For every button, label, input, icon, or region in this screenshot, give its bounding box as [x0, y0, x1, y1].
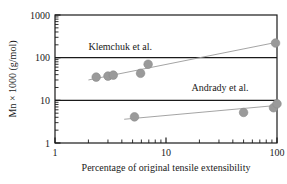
y-tick-label-1000: 1000	[30, 10, 50, 21]
data-point-series-0-4	[144, 60, 153, 69]
chart-figure: 1101001000110100Percentage of original t…	[0, 0, 287, 184]
y-tick-label-1: 1	[45, 138, 50, 149]
data-point-series-1-3	[273, 99, 282, 108]
x-tick-label-1: 1	[53, 147, 58, 158]
series-annotation-0: Klemchuk et al.	[88, 41, 152, 52]
x-tick-label-10: 10	[161, 147, 171, 158]
y-tick-label-100: 100	[35, 52, 50, 63]
data-point-series-0-5	[271, 39, 280, 48]
scatter-plot: 1101001000110100Percentage of original t…	[0, 0, 287, 184]
data-point-series-0-3	[136, 69, 145, 78]
data-point-series-1-1	[239, 108, 248, 117]
x-axis-title: Percentage of original tensile extensibi…	[82, 162, 251, 173]
data-point-series-1-0	[130, 113, 139, 122]
x-tick-label-100: 100	[270, 147, 285, 158]
data-point-series-0-2	[109, 71, 118, 80]
y-axis-title: Mn × 1000 (g/mol)	[7, 40, 19, 117]
data-point-series-0-0	[92, 73, 101, 82]
series-annotation-1: Andrady et al.	[192, 82, 249, 93]
y-tick-label-10: 10	[40, 95, 50, 106]
trendline-series-1	[124, 105, 277, 119]
plot-frame	[55, 15, 277, 143]
